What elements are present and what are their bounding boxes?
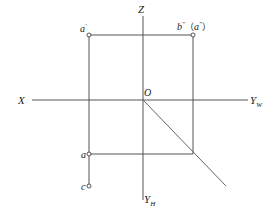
label-b-double-prime-a-double-prime: b″（a″）: [177, 20, 211, 32]
x-axis-label: X: [17, 94, 26, 106]
label-a-prime: a′: [80, 22, 87, 34]
paren-open: （: [185, 22, 194, 32]
z-axis-label: Z: [138, 3, 145, 15]
yw-subscript: W: [256, 101, 263, 109]
point-a-prime: [87, 33, 91, 37]
mitre-line-45deg: [143, 100, 226, 186]
yh-subscript: H: [149, 200, 156, 208]
yw-axis-label: YW: [250, 94, 263, 109]
point-a: [87, 152, 91, 156]
label-c: c: [81, 181, 86, 192]
paren-close: ）: [202, 22, 211, 32]
label-a: a: [81, 149, 86, 160]
point-c: [87, 184, 91, 188]
yh-axis-label: YH: [144, 193, 156, 208]
origin-label: O: [144, 87, 151, 98]
a-prime-mark: ′: [85, 22, 87, 30]
point-b-double-prime: [191, 33, 195, 37]
projection-diagram: X Z O YW YH a′ b″（a″） a c: [0, 0, 280, 224]
